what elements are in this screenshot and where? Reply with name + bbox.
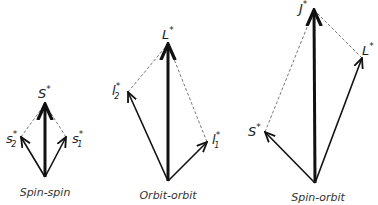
vector-coupling-diagram: S* s*2 s*1 Spin-spin L* l*2 l*1 Orbit-or… xyxy=(0,0,378,205)
label-S-star-so: S* xyxy=(248,124,261,138)
label-S-star: S* xyxy=(38,86,51,100)
spin-spin-dashed-1 xyxy=(45,104,66,137)
orbit-orbit-component-arrow-0 xyxy=(128,92,168,181)
spin-orbit-dashed-0 xyxy=(265,10,314,132)
label-s2-star: s*2 xyxy=(6,131,16,149)
spin-orbit-dashed-1 xyxy=(314,10,362,58)
orbit-orbit-component-arrow-1 xyxy=(168,142,207,181)
spin-orbit-component-arrow-0 xyxy=(265,132,315,183)
spin-spin-component-arrow-0 xyxy=(21,137,45,177)
label-s1-star: s*1 xyxy=(72,131,82,149)
spin-orbit-resultant-arrow xyxy=(314,10,315,183)
orbit-orbit-dashed-1 xyxy=(168,44,207,142)
label-L-star: L* xyxy=(162,27,174,41)
vector-diagram-canvas xyxy=(0,0,378,205)
spin-orbit-component-arrow-1 xyxy=(315,58,362,183)
spin-spin-component-arrow-1 xyxy=(45,137,66,177)
caption-spin-orbit: Spin-orbit xyxy=(291,192,345,203)
label-L-star-so: L* xyxy=(362,43,374,57)
caption-orbit-orbit: Orbit-orbit xyxy=(139,190,196,201)
label-J-star: J* xyxy=(299,1,307,15)
label-l1-star: l*1 xyxy=(212,132,219,150)
caption-spin-spin: Spin-spin xyxy=(20,187,71,198)
orbit-orbit-dashed-0 xyxy=(128,44,168,92)
spin-spin-dashed-0 xyxy=(21,104,45,137)
label-l2-star: l*2 xyxy=(112,83,119,101)
